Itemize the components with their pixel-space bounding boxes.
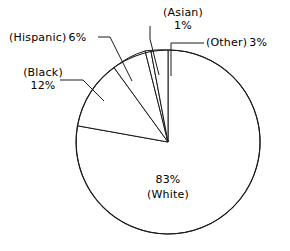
slice-label-white-pct: 83% [128, 172, 208, 187]
slice-label-hispanic-pct: 6% [66, 31, 86, 44]
slice-label-hispanic-name: (Hispanic) [9, 31, 66, 44]
slice-label-white: 83% (White) [128, 172, 208, 202]
slice-label-black: (Black) 12% [10, 66, 76, 92]
slice-label-black-name: (Black) [10, 66, 76, 79]
slice-label-other-name: (Other) [206, 36, 247, 49]
slice-label-hispanic: (Hispanic)6% [9, 31, 86, 44]
slice-label-asian: (Asian) 1% [154, 6, 212, 32]
slice-label-black-pct: 12% [10, 79, 76, 92]
slice-label-white-name: (White) [128, 187, 208, 202]
slice-label-asian-pct: 1% [154, 19, 212, 32]
pie-chart: (Hispanic)6% (Black) 12% (Asian) 1% (Oth… [0, 0, 290, 251]
slice-label-other-pct: 3% [247, 36, 267, 49]
pie-slices [76, 50, 260, 234]
slice-label-other: (Other)3% [206, 36, 267, 49]
slice-label-asian-name: (Asian) [154, 6, 212, 19]
